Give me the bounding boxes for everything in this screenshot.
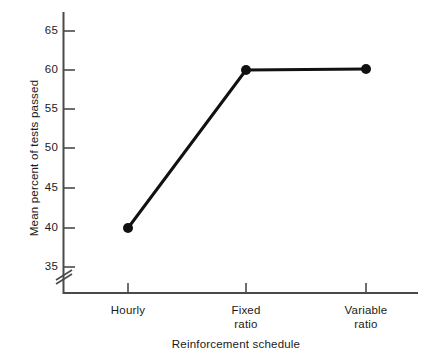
y-tick-label-35: 35 (32, 260, 58, 272)
y-axis-ticks (64, 31, 75, 267)
data-line-series-1 (128, 69, 366, 228)
x-axis-title: Reinforcement schedule (96, 338, 376, 350)
x-tick-label-variable-ratio-line2: ratio (321, 317, 411, 331)
chart-figure: 65 60 55 50 45 40 35 Hourly Fixed ratio … (0, 0, 443, 361)
x-tick-label-fixed-ratio: Fixed ratio (201, 303, 291, 331)
y-tick-label-65: 65 (32, 24, 58, 36)
data-point-hourly (123, 223, 133, 233)
x-tick-label-variable-ratio: Variable ratio (321, 303, 411, 331)
x-tick-label-fixed-ratio-line1: Fixed (201, 303, 291, 317)
x-tick-label-hourly-line1: Hourly (83, 303, 173, 317)
x-axis-ticks (128, 283, 366, 292)
y-axis-title: Mean percent of tests passed (28, 58, 40, 258)
data-point-markers (123, 64, 371, 233)
x-tick-label-hourly: Hourly (83, 303, 173, 317)
data-point-fixed-ratio (241, 65, 251, 75)
x-tick-label-fixed-ratio-line2: ratio (201, 317, 291, 331)
data-point-variable-ratio (361, 64, 371, 74)
x-tick-label-variable-ratio-line1: Variable (321, 303, 411, 317)
